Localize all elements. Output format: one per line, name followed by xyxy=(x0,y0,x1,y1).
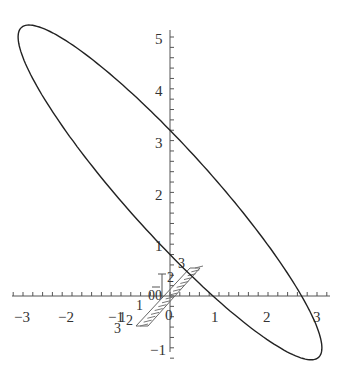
x-tick-label: −2 xyxy=(58,309,74,325)
y-tick-label: 5 xyxy=(155,31,163,47)
y-tick-label: 2 xyxy=(155,187,163,203)
inset-label: 1 xyxy=(136,298,143,313)
inset-label: 0 xyxy=(155,288,162,303)
x-tick-label: 1 xyxy=(211,309,219,325)
x-axis xyxy=(12,292,330,296)
y-tick-label: 4 xyxy=(155,83,163,99)
inset-label: 2 xyxy=(167,270,174,285)
chart-canvas: −3 −2 −1 1 2 3 5 4 3 2 1 −1 0 3 2 1 0 0 … xyxy=(0,0,350,379)
origin-label: 0 xyxy=(165,307,173,323)
y-tick-label: 3 xyxy=(155,135,163,151)
x-tick-label: 3 xyxy=(313,309,321,325)
x-tick-label: −3 xyxy=(14,309,30,325)
inset-label: 0 xyxy=(148,288,155,303)
y-tick-label: −1 xyxy=(150,342,166,358)
x-tick-label: 2 xyxy=(263,309,271,325)
inset-label: 3 xyxy=(114,321,121,336)
inset-label: 2 xyxy=(126,313,133,328)
